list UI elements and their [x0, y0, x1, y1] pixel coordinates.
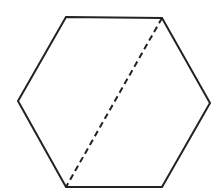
- hexagon-outline: [18, 17, 210, 187]
- dashed-diagonal: [66, 18, 162, 187]
- hexagon-diagram: [0, 0, 224, 195]
